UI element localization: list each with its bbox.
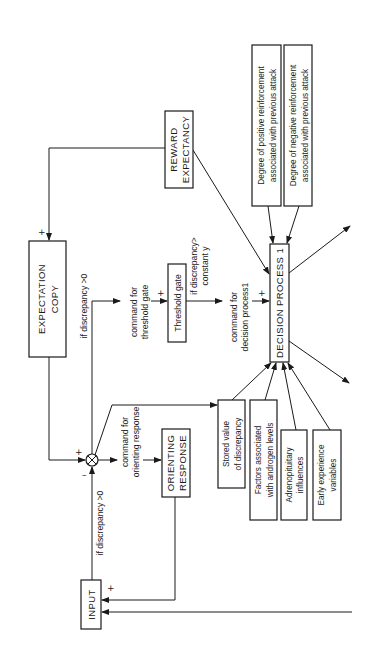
connector-decision-output-upper — [289, 226, 350, 273]
negative-reinforcement-label-1: Degree of negative reinforcement — [289, 64, 298, 186]
adrenopituitary-label-1: Adrenopituitary — [285, 447, 294, 503]
if-discrepancy-lower-label: if discrepancy >0 — [95, 490, 105, 555]
connector-stored-to-decision — [232, 363, 271, 400]
decision-process-label: DECISION PROCESS 1 — [274, 248, 285, 358]
connector-expectation-to-junction — [49, 357, 85, 460]
reward-expectancy-label-2: EXPECTANCY — [180, 115, 191, 183]
orienting-response-label-1: ORIENTING — [165, 435, 176, 491]
negative-reinforcement-label-2: associated with previous attack — [301, 68, 310, 182]
input-label: INPUT — [86, 589, 97, 620]
plus-sign-expectation: + — [38, 227, 46, 237]
adrenopituitary-label-2: influences — [296, 457, 305, 494]
stored-value-label-1: Stored value — [222, 421, 231, 467]
command-threshold-label-2: threshold gate — [140, 285, 150, 340]
plus-sign-input: + — [107, 583, 115, 593]
if-discrepancy-constant-label-2: constant y — [200, 246, 210, 286]
androgen-factors-label-2: with androgen levels — [266, 423, 275, 499]
command-orienting-label-2: orienting response — [131, 406, 141, 477]
plus-sign-threshold: + — [157, 288, 165, 298]
stored-value-label-2: of discrepancy — [234, 417, 243, 471]
summing-junction-icon — [86, 454, 98, 466]
expectation-copy-label-1: EXPECTATION — [36, 264, 47, 334]
command-decision-label-2: decision process1 — [240, 282, 250, 351]
connector-androgen-to-decision — [265, 363, 276, 400]
connector-decision-output-lower — [289, 341, 349, 383]
connector-junction-to-stored-value — [95, 405, 217, 455]
orienting-response-label-2: RESPONSE — [177, 435, 188, 491]
expectation-copy-label-2: COPY — [49, 284, 60, 313]
threshold-gate-label: Threshold gate — [173, 274, 183, 332]
plus-sign-junction: + — [75, 447, 83, 457]
connector-reward-to-expectation — [49, 148, 165, 240]
connector-junction-to-threshold-command — [92, 301, 120, 454]
minus-sign-junction: – — [82, 470, 87, 480]
early-experience-label-2: variables — [329, 459, 338, 492]
androgen-factors-label-1: Factors associated — [254, 425, 263, 494]
connector-negative-to-decision — [287, 206, 299, 243]
positive-reinforcement-label-2: associated with previous attack — [269, 68, 278, 182]
expectation-copy-box — [29, 241, 66, 357]
early-experience-label-1: Early experience — [317, 444, 326, 505]
if-discrepancy-constant-label-1: if discrepancy> — [189, 237, 199, 295]
reward-expectancy-label-1: REWARD — [168, 127, 179, 171]
if-discrepancy-upper-label: if discrepancy >0 — [79, 273, 89, 338]
flow-diagram: INPUT EXPECTATION COPY REWARD EXPECTANCY… — [0, 0, 371, 666]
command-orienting-label-1: command for — [120, 417, 130, 467]
positive-reinforcement-label-1: Degree of positive reinforcement — [257, 66, 266, 185]
command-decision-label-1: command for — [229, 292, 239, 342]
plus-sign-decision: + — [258, 288, 266, 298]
command-threshold-label-1: command for — [129, 287, 139, 337]
connector-positive-to-decision — [268, 206, 273, 243]
